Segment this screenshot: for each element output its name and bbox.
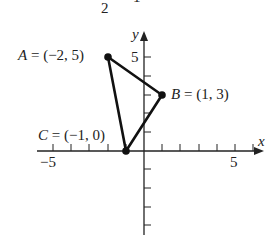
- point-c-label: C = (−1, 0): [38, 127, 105, 144]
- point-a-label-rest: = (−2, 5): [27, 47, 84, 64]
- triangle-abc: [108, 57, 162, 151]
- y-axis-arrow-icon: [140, 31, 148, 41]
- x-axis-label: x: [257, 133, 265, 149]
- point-c: [122, 147, 130, 155]
- point-a-label: A = (−2, 5): [17, 47, 84, 64]
- point-a: [104, 53, 112, 61]
- point-b: [158, 91, 166, 99]
- x-tick-label-neg5: −5: [40, 154, 56, 170]
- x-tick-label-5: 5: [230, 154, 238, 170]
- y-tick-label-5: 5: [131, 49, 139, 65]
- y-axis-label: y: [130, 26, 139, 42]
- header-fragment-2: 2: [101, 0, 109, 16]
- header-fragment-1: 1: [133, 0, 141, 5]
- point-b-label: B = (1, 3): [171, 86, 229, 103]
- coordinate-diagram: 2 1 −5 5 x: [0, 0, 268, 235]
